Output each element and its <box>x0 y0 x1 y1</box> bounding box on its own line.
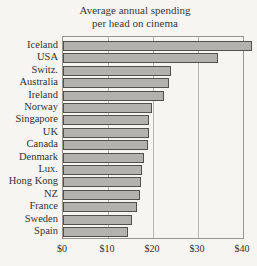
x-tick-label: $30 <box>180 242 214 255</box>
category-label: France <box>0 200 58 212</box>
x-tick-label: $40 <box>225 242 257 255</box>
bar-norway <box>63 103 152 113</box>
bar-lux <box>63 165 142 175</box>
category-label: Ireland <box>0 89 58 101</box>
bar-denmark <box>63 153 144 163</box>
category-label: Norway <box>0 101 58 113</box>
bar-nz <box>63 190 140 200</box>
category-label: UK <box>0 126 58 138</box>
bar-usa <box>63 53 218 63</box>
category-label: Sweden <box>0 213 58 225</box>
bar-australia <box>63 78 169 88</box>
x-tick-label: $0 <box>45 242 79 255</box>
bar-iceland <box>63 41 252 51</box>
category-label: Singapore <box>0 113 58 125</box>
bar-france <box>63 202 137 212</box>
category-label: Lux. <box>0 163 58 175</box>
bar-singapore <box>63 115 149 125</box>
category-label: Canada <box>0 138 58 150</box>
category-label: Spain <box>0 225 58 237</box>
bar-hong-kong <box>63 177 141 187</box>
category-label: Switz. <box>0 64 58 76</box>
category-label: Hong Kong <box>0 175 58 187</box>
chart-title-line-1: Average annual spending <box>14 4 256 17</box>
bar-switz <box>63 66 171 76</box>
chart-title-line-2: per head on cinema <box>14 17 256 30</box>
x-tick-label: $20 <box>135 242 169 255</box>
x-tick-label: $10 <box>90 242 124 255</box>
category-label: Australia <box>0 76 58 88</box>
bar-spain <box>63 227 128 237</box>
bar-sweden <box>63 215 132 225</box>
bar-uk <box>63 128 149 138</box>
plot-area <box>62 36 244 239</box>
cinema-spending-bar-chart: Average annual spending per head on cine… <box>0 0 257 266</box>
category-label: NZ <box>0 188 58 200</box>
gridline-30 <box>198 37 199 238</box>
category-label: Denmark <box>0 151 58 163</box>
bar-ireland <box>63 91 164 101</box>
bar-canada <box>63 140 148 150</box>
category-label: Iceland <box>0 39 58 51</box>
chart-title: Average annual spending per head on cine… <box>14 4 256 30</box>
category-label: USA <box>0 51 58 63</box>
